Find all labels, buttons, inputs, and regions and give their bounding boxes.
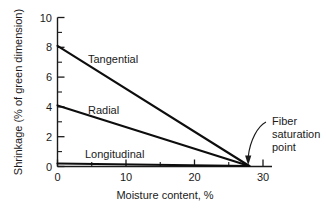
x-tick-label-0: 0 [54,171,60,183]
series-label-radial: Radial [88,104,119,116]
x-tick-label-10: 10 [120,171,132,183]
annotation-line-saturation: saturation [272,128,320,140]
y-tick-label-2: 2 [46,131,52,143]
y-tick-label-8: 8 [46,41,52,53]
y-tick-label-6: 6 [46,71,52,83]
annotation-line-point: point [272,141,296,153]
x-tick-label-20: 20 [188,171,200,183]
y-tick-label-10: 10 [40,12,52,24]
y-tick-label-4: 4 [46,101,52,113]
annotation-line-fiber: Fiber [272,115,297,127]
y-tick-label-0: 0 [46,161,52,173]
x-tick-label-30: 30 [257,171,269,183]
series-label-tangential: Tangential [88,53,138,65]
series-label-longitudinal: Longitudinal [85,148,144,160]
x-axis-title: Moisture content, % [116,189,213,201]
chart-figure: 0 2 4 6 8 10 0 10 20 30 Moisture content… [0,0,326,214]
shrinkage-vs-moisture-line-chart: 0 2 4 6 8 10 0 10 20 30 Moisture content… [0,0,326,214]
y-axis-title: Shrinkage (% of green dimension) [12,9,24,175]
